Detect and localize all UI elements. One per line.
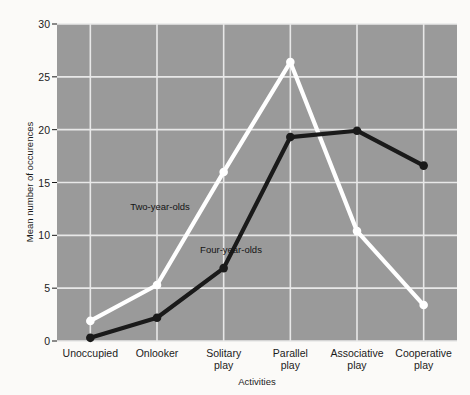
y-tick-label: 20 — [38, 124, 50, 136]
data-point — [86, 334, 95, 343]
series-annotation-label: Two-year-olds — [130, 201, 190, 212]
y-tick-label: 15 — [38, 177, 50, 189]
data-point — [86, 317, 95, 326]
x-tick-label: Onlooker — [136, 347, 179, 359]
x-tick-label: Unoccupied — [63, 347, 119, 359]
data-point — [153, 313, 162, 322]
data-point — [286, 133, 295, 142]
y-axis-title: Mean number of occurences — [24, 122, 35, 243]
y-tick-label: 30 — [38, 18, 50, 30]
data-point — [353, 126, 362, 135]
data-point — [219, 168, 228, 177]
y-tick-label: 25 — [38, 71, 50, 83]
y-tick-label: 5 — [44, 282, 50, 294]
x-tick-label: Cooperative — [395, 347, 452, 359]
data-point — [419, 161, 428, 170]
x-tick-label: play — [414, 359, 434, 371]
play-activities-line-chart: 051015202530 UnoccupiedOnlookerSolitaryp… — [0, 0, 470, 395]
data-point — [219, 264, 228, 273]
data-point — [153, 281, 162, 290]
x-tick-label: play — [347, 359, 367, 371]
data-point — [419, 301, 428, 310]
data-point — [353, 227, 362, 236]
y-tick-label: 10 — [38, 229, 50, 241]
x-tick-label: play — [214, 359, 234, 371]
x-tick-label: Parallel — [273, 347, 308, 359]
chart-figure: 051015202530 UnoccupiedOnlookerSolitaryp… — [0, 0, 470, 395]
y-tick-label: 0 — [44, 335, 50, 347]
data-point — [286, 58, 295, 67]
x-tick-label: play — [281, 359, 301, 371]
series-annotation-label: Four-year-olds — [200, 244, 262, 255]
x-axis-title: Activities — [238, 376, 276, 387]
x-tick-label: Solitary — [206, 347, 242, 359]
x-tick-label: Associative — [330, 347, 383, 359]
